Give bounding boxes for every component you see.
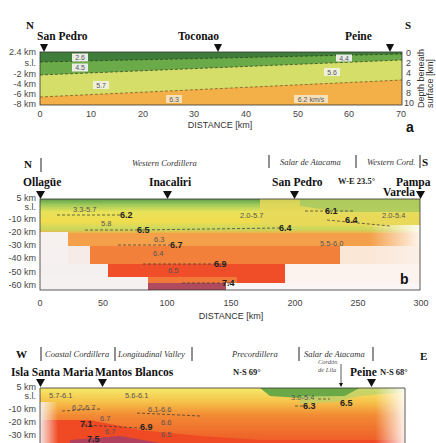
svg-text:-6 km: -6 km (14, 89, 37, 99)
svg-text:6.9: 6.9 (140, 422, 153, 432)
svg-text:s.l.: s.l. (24, 58, 36, 68)
svg-text:5.7-6.1: 5.7-6.1 (49, 391, 72, 400)
svg-text:s.l.: s.l. (24, 202, 36, 212)
svg-text:6.5: 6.5 (168, 266, 178, 275)
station-marker-icon (214, 44, 222, 52)
svg-text:6.4: 6.4 (153, 249, 163, 258)
region-salar-de-atacama: Salar de Atacama (280, 157, 341, 167)
svg-text:60: 60 (344, 109, 354, 119)
station-peine: Peine (350, 366, 377, 378)
svg-text:250: 250 (350, 298, 365, 308)
svg-text:-40 km: -40 km (8, 253, 36, 263)
cordon-label: Cordón (318, 358, 338, 365)
station-san-pedro: San Pedro (37, 30, 88, 42)
station-inacaliri: Inacaliri (149, 176, 192, 188)
station-varela: Varela (383, 186, 415, 198)
svg-text:4: 4 (406, 68, 411, 78)
svg-text:6.9: 6.9 (214, 259, 227, 269)
svg-text:6.2: 6.2 (120, 210, 133, 220)
station-marker-icon (416, 191, 425, 199)
svg-text:5.8: 5.8 (101, 219, 111, 228)
panel-b: N Western Cordillera Salar de Atacama We… (8, 155, 430, 321)
left-axis-b: 5 km s.l. -10 km -20 km -30 km -40 km -5… (8, 193, 36, 290)
svg-text:5.5-6.0: 5.5-6.0 (320, 239, 343, 248)
svg-text:-2 km: -2 km (14, 69, 37, 79)
x-axis-title: DISTANCE [km] (188, 120, 252, 130)
svg-text:8: 8 (406, 88, 411, 98)
svg-text:6.5: 6.5 (340, 398, 353, 408)
panel-c: W Coastal Cordillera Longitudinal Valley… (8, 347, 427, 443)
direction-south: S (422, 156, 428, 168)
left-axis-c: 5 km s.l. -10 km -20 km -30 km (8, 382, 36, 440)
station-mantos-blancos: Mantos Blancos (95, 366, 174, 378)
svg-text:5.6-6.1: 5.6-6.1 (125, 391, 148, 400)
figure: N S San Pedro Toconao Peine 2.6 4.5 5.7 … (0, 0, 436, 443)
svg-text:6.7: 6.7 (100, 414, 110, 423)
svg-text:7.4: 7.4 (222, 278, 235, 288)
svg-text:300: 300 (413, 298, 428, 308)
station-marker-icon (98, 379, 107, 387)
station-marker-icon (386, 44, 394, 52)
svg-text:6.1: 6.1 (325, 206, 338, 216)
x-axis-b: 0 50 100 150 200 250 300 DISTANCE [km] (37, 298, 428, 321)
svg-text:6.3: 6.3 (303, 401, 316, 411)
region-coastal-cordillera: Coastal Cordillera (45, 349, 109, 359)
direction-east: E (420, 350, 427, 362)
station-marker-icon (40, 44, 48, 52)
svg-text:50: 50 (98, 298, 108, 308)
station-ollague: Ollagüe (23, 176, 61, 189)
panel-a: N S San Pedro Toconao Peine 2.6 4.5 5.7 … (9, 19, 435, 135)
station-peine: Peine (345, 30, 372, 42)
right-axis: 0 2 4 6 8 10 Depth beneath surface [km] (404, 48, 435, 108)
x-axis-title: DISTANCE [km] (199, 311, 263, 321)
left-axis: 2.4 km s.l. -2 km -4 km -6 km -8 km (9, 47, 36, 109)
region-longitudinal-valley: Longitudinal Valley (117, 349, 185, 359)
station-marker-icon (367, 379, 376, 387)
svg-text:6.5: 6.5 (161, 430, 171, 439)
svg-text:10: 10 (86, 109, 96, 119)
svg-text:6.7: 6.7 (105, 427, 115, 436)
panel-label-a: a (406, 119, 414, 135)
x-axis: 0 10 20 30 40 50 60 70 DISTANCE [km] (37, 109, 406, 130)
svg-text:6.3: 6.3 (169, 96, 179, 103)
svg-text:-10 km: -10 km (8, 214, 36, 224)
svg-text:100: 100 (159, 298, 174, 308)
svg-text:5.7: 5.7 (96, 82, 106, 89)
direction-south: S (405, 19, 411, 31)
bend-label-2: N-S 68° (380, 367, 408, 377)
svg-text:70: 70 (396, 109, 406, 119)
svg-text:surface [km]: surface [km] (425, 59, 435, 108)
direction-north: N (24, 158, 32, 170)
cordon-label: de Lila (318, 366, 336, 373)
svg-text:6.7: 6.7 (170, 240, 183, 250)
station-marker-icon (290, 191, 299, 199)
svg-text:-30 km: -30 km (8, 430, 36, 440)
direction-west: W (16, 348, 27, 360)
svg-text:6: 6 (406, 78, 411, 88)
svg-text:6.1-6.6: 6.1-6.6 (148, 405, 171, 414)
svg-text:-60 km: -60 km (8, 280, 36, 290)
svg-text:200: 200 (287, 298, 302, 308)
svg-text:2.6: 2.6 (75, 54, 85, 61)
svg-text:20: 20 (138, 109, 148, 119)
region-precordillera: Precordillera (231, 349, 278, 359)
svg-text:40: 40 (241, 109, 251, 119)
svg-text:6.4: 6.4 (345, 215, 358, 225)
svg-text:6.3: 6.3 (154, 235, 164, 244)
svg-text:-20 km: -20 km (8, 417, 36, 427)
region-western-cordillera: Western Cordillera (132, 158, 197, 168)
svg-text:-10 km: -10 km (8, 404, 36, 414)
svg-text:7.1: 7.1 (80, 419, 93, 429)
svg-text:0: 0 (37, 109, 42, 119)
svg-text:4.4: 4.4 (339, 55, 349, 62)
svg-text:6.2 km/s: 6.2 km/s (298, 96, 325, 103)
station-toconao: Toconao (178, 30, 219, 42)
svg-text:-8 km: -8 km (14, 99, 37, 109)
station-san-pedro: San Pedro (272, 176, 323, 188)
panel-label-b: b (400, 271, 409, 287)
svg-text:10: 10 (404, 98, 414, 108)
bend-label: W-E 23.5° (338, 176, 375, 186)
direction-north: N (26, 19, 34, 31)
svg-text:2.4 km: 2.4 km (9, 47, 36, 57)
svg-text:2: 2 (406, 58, 411, 68)
